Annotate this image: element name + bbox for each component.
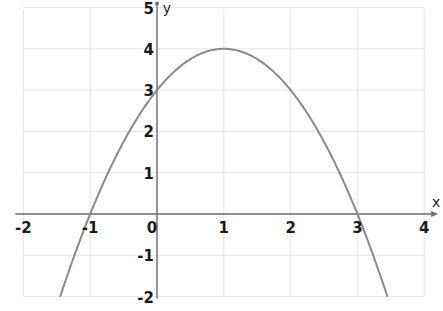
y-tick-label: 4 xyxy=(144,41,154,59)
x-tick-label: 1 xyxy=(219,219,229,237)
x-tick-label: -1 xyxy=(82,219,99,237)
gridlines xyxy=(23,8,424,297)
x-axis-label: x xyxy=(432,194,440,210)
x-tick-label: -2 xyxy=(15,219,32,237)
y-tick-label: 1 xyxy=(144,165,154,183)
axes xyxy=(15,2,438,299)
y-tick-label: 3 xyxy=(144,82,154,100)
y-tick-label: 2 xyxy=(144,123,154,141)
y-tick-label: 5 xyxy=(144,0,154,18)
y-tick-label: -1 xyxy=(137,247,154,265)
origin-label: 0 xyxy=(147,219,157,237)
x-axis-arrow-icon xyxy=(431,211,438,217)
x-tick-label: 2 xyxy=(285,219,295,237)
y-axis-label: y xyxy=(163,0,171,16)
plot-area: -2-112340-2-112345xy xyxy=(0,0,443,311)
chart: -2-112340-2-112345xy xyxy=(0,0,443,311)
x-tick-label: 3 xyxy=(352,219,362,237)
y-axis-arrow-icon xyxy=(155,2,159,6)
tick-labels: -2-112340-2-112345xy xyxy=(15,0,440,307)
x-tick-label: 4 xyxy=(419,219,429,237)
y-tick-label: -2 xyxy=(137,289,154,307)
